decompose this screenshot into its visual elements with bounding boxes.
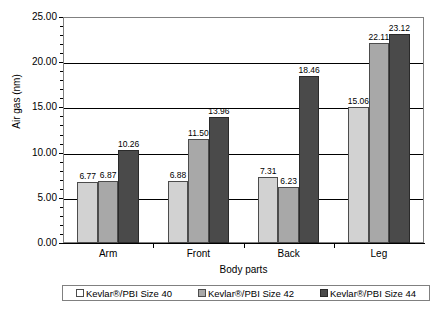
x-axis-title: Body parts (63, 264, 424, 275)
bar-value-label: 7.31 (260, 167, 277, 176)
bar-slot: 11.50 (188, 17, 208, 243)
bar-value-label: 15.06 (348, 97, 369, 106)
bar-value-label: 6.88 (170, 171, 187, 180)
bar-value-label: 10.26 (118, 140, 139, 149)
legend-item[interactable]: Kevlar®/PBI Size 42 (198, 288, 294, 299)
bar-slot: 22.11 (369, 17, 389, 243)
y-tick-label: 20.00 (17, 57, 57, 67)
bar[interactable] (369, 43, 389, 243)
bar-slot: 15.06 (348, 17, 368, 243)
bar-slot: 6.88 (168, 17, 188, 243)
legend-swatch-icon (198, 289, 206, 297)
bar-slot: 18.46 (299, 17, 319, 243)
y-tick-label: 0.00 (17, 238, 57, 248)
y-axis-tick-labels: 25.0020.0015.0010.005.000.00 (13, 0, 57, 310)
legend-swatch-icon (76, 289, 84, 297)
chart-legend: Kevlar®/PBI Size 40Kevlar®/PBI Size 42Ke… (62, 285, 430, 301)
bar-chart: Air gas (nm) 25.0020.0015.0010.005.000.0… (0, 0, 436, 310)
x-axis-tick-labels: ArmFrontBackLeg (63, 248, 424, 259)
bar-group: 6.776.8710.26 (63, 17, 153, 243)
bar[interactable] (188, 139, 208, 243)
legend-item[interactable]: Kevlar®/PBI Size 40 (76, 288, 172, 299)
bar-group-bars: 15.0622.1123.12 (348, 17, 409, 243)
bar[interactable] (278, 187, 298, 243)
bar[interactable] (118, 150, 138, 243)
bar[interactable] (389, 34, 409, 243)
bar-group: 15.0622.1123.12 (334, 17, 424, 243)
bar[interactable] (168, 181, 188, 243)
x-tick-label-leg: Leg (334, 248, 424, 259)
x-axis-line (63, 243, 425, 244)
bar-slot: 7.31 (258, 17, 278, 243)
y-tick-label: 25.00 (17, 12, 57, 22)
bar-value-label: 23.12 (389, 24, 410, 33)
bar[interactable] (98, 181, 118, 243)
bar-slot: 13.96 (209, 17, 229, 243)
bar-slot: 6.77 (77, 17, 97, 243)
bar[interactable] (209, 117, 229, 243)
bar-group-bars: 6.776.8710.26 (77, 17, 138, 243)
chart-title (0, 0, 436, 2)
y-tick-label: 5.00 (17, 193, 57, 203)
x-tick-label-arm: Arm (63, 248, 153, 259)
bar[interactable] (299, 76, 319, 243)
bar-value-label: 6.77 (79, 172, 96, 181)
bar-groups: 6.776.8710.266.8811.5013.967.316.2318.46… (63, 17, 424, 243)
y-tick-label: 15.00 (17, 102, 57, 112)
bar-slot: 6.23 (278, 17, 298, 243)
bar-group-bars: 7.316.2318.46 (258, 17, 319, 243)
legend-item[interactable]: Kevlar®/PBI Size 44 (320, 288, 416, 299)
bar[interactable] (77, 182, 97, 243)
bar-value-label: 6.87 (100, 171, 117, 180)
bar-group: 7.316.2318.46 (244, 17, 334, 243)
bar[interactable] (348, 107, 368, 243)
bar-value-label: 6.23 (280, 177, 297, 186)
bar-value-label: 22.11 (369, 33, 390, 42)
legend-label: Kevlar®/PBI Size 44 (330, 288, 416, 299)
legend-swatch-icon (320, 289, 328, 297)
x-tick-label-back: Back (244, 248, 334, 259)
bar-value-label: 11.50 (188, 129, 209, 138)
bar[interactable] (258, 177, 278, 243)
bar-group: 6.8811.5013.96 (153, 17, 243, 243)
bar-slot: 23.12 (389, 17, 409, 243)
legend-label: Kevlar®/PBI Size 40 (86, 288, 172, 299)
x-tick-label-front: Front (153, 248, 243, 259)
bar-value-label: 13.96 (208, 107, 229, 116)
bar-value-label: 18.46 (298, 66, 319, 75)
legend-label: Kevlar®/PBI Size 42 (208, 288, 294, 299)
y-tick-label: 10.00 (17, 148, 57, 158)
bar-slot: 6.87 (98, 17, 118, 243)
bar-slot: 10.26 (118, 17, 138, 243)
bar-group-bars: 6.8811.5013.96 (168, 17, 229, 243)
